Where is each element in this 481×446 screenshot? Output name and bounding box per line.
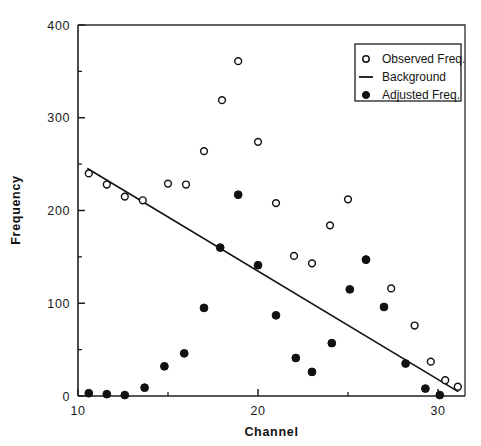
data-point <box>292 354 300 362</box>
data-point <box>454 383 461 390</box>
data-point <box>380 303 388 311</box>
y-axis-title: Frequency <box>9 175 23 245</box>
data-point <box>388 285 395 292</box>
data-point <box>309 260 316 267</box>
data-point <box>328 339 336 347</box>
data-point <box>234 191 242 199</box>
data-point <box>121 391 129 399</box>
data-point <box>272 311 280 319</box>
y-tick-label: 0 <box>62 390 70 404</box>
data-point <box>235 58 242 65</box>
data-point <box>402 360 410 368</box>
legend-marker <box>362 91 369 98</box>
data-point <box>219 97 226 104</box>
data-point <box>308 368 316 376</box>
x-axis-title: Channel <box>244 425 298 439</box>
x-tick-label: 10 <box>70 404 85 418</box>
data-point <box>346 285 354 293</box>
legend-marker <box>363 56 369 62</box>
data-point <box>427 358 434 365</box>
x-tick-label: 20 <box>250 404 265 418</box>
data-point <box>273 200 280 207</box>
data-point <box>85 170 92 177</box>
x-tick-label: 30 <box>430 404 445 418</box>
data-point <box>291 253 298 260</box>
data-point <box>201 148 208 155</box>
data-point <box>254 261 262 269</box>
data-point <box>103 390 111 398</box>
data-point <box>216 244 224 252</box>
y-tick-label: 100 <box>47 297 70 311</box>
legend-label: Adjusted Freq. <box>382 88 460 102</box>
data-point <box>200 304 208 312</box>
data-point <box>362 256 370 264</box>
data-point <box>121 193 128 200</box>
y-tick-label: 400 <box>47 19 70 33</box>
data-point <box>345 196 352 203</box>
data-point <box>436 391 444 399</box>
data-point <box>183 181 190 188</box>
legend: Observed Freq.BackgroundAdjusted Freq. <box>355 44 465 102</box>
data-point <box>85 389 93 397</box>
data-point <box>411 322 418 329</box>
data-point <box>161 362 169 370</box>
data-point <box>255 138 262 145</box>
legend-label: Observed Freq. <box>382 52 465 66</box>
y-axis-ticks: 0100200300400 <box>47 19 85 404</box>
data-point <box>139 197 146 204</box>
data-point <box>327 222 334 229</box>
data-point <box>422 385 430 393</box>
chart-figure: 0100200300400 102030 Channel Frequency O… <box>0 0 481 446</box>
data-point <box>180 349 188 357</box>
data-point <box>165 180 172 187</box>
scatter-plot-svg: 0100200300400 102030 Channel Frequency O… <box>0 0 481 446</box>
data-point <box>103 181 110 188</box>
data-point <box>442 377 449 384</box>
observed-freq-points <box>85 58 461 390</box>
adjusted-freq-points <box>85 191 444 399</box>
y-tick-label: 200 <box>47 204 70 218</box>
data-point <box>141 384 149 392</box>
legend-label: Background <box>382 70 446 84</box>
y-tick-label: 300 <box>47 111 70 125</box>
